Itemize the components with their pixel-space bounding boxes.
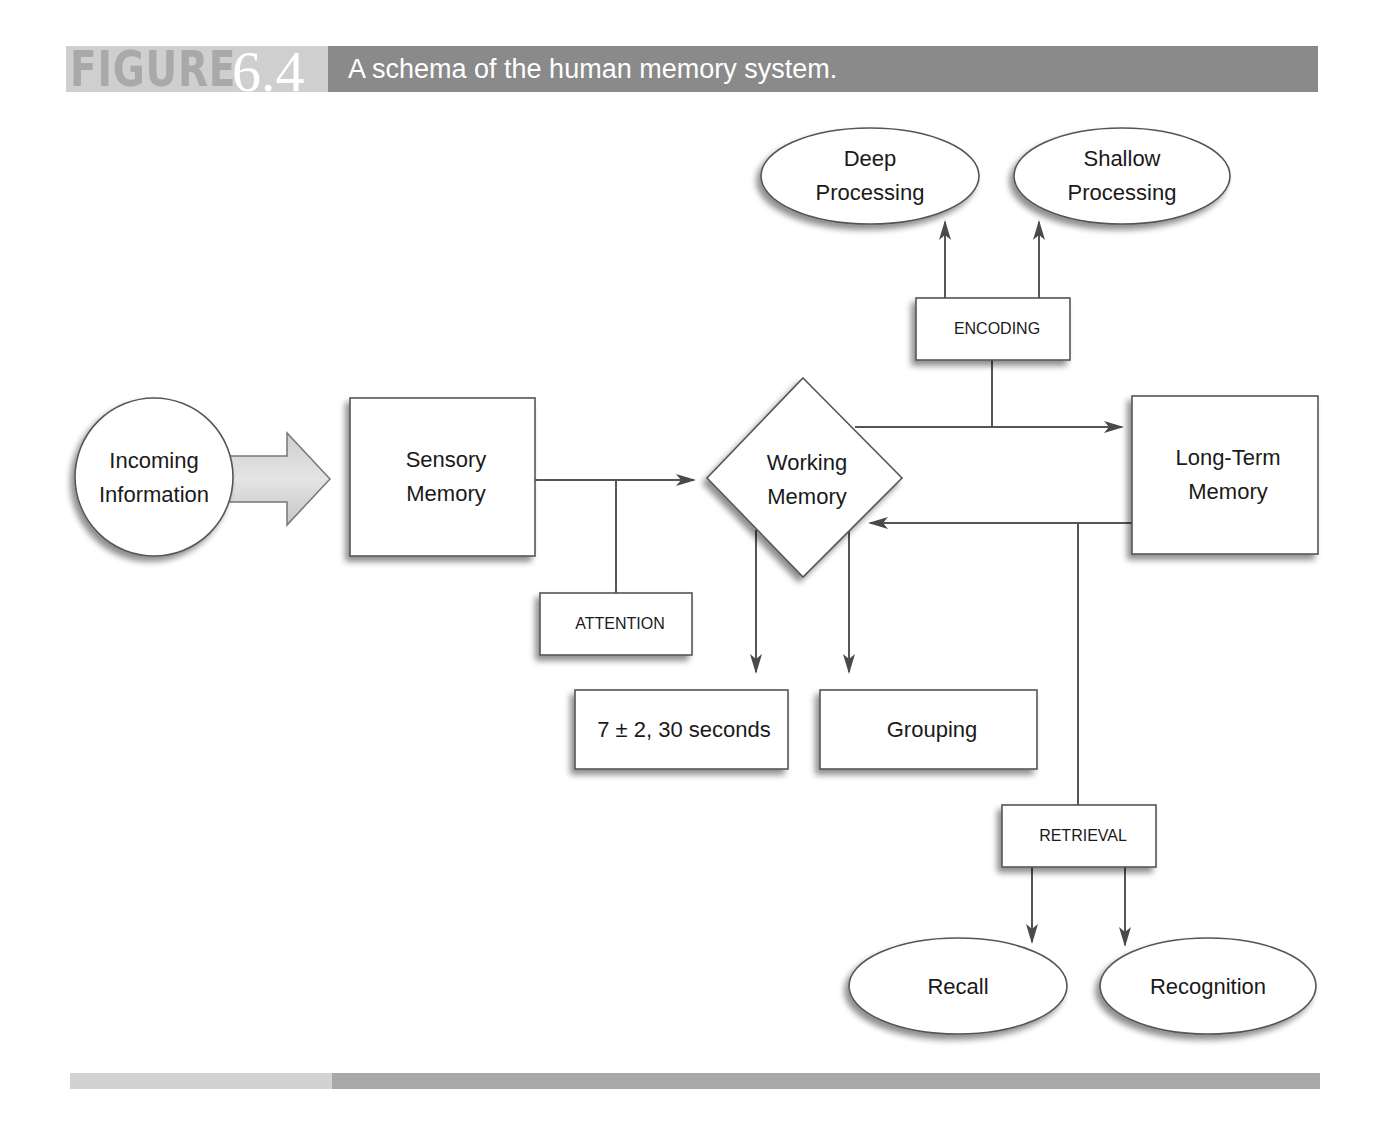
longterm-label-1: Long-Term bbox=[1175, 445, 1280, 470]
attention-label: ATTENTION bbox=[575, 615, 664, 632]
footer-bar-dark bbox=[332, 1073, 1320, 1089]
incoming-label-1: Incoming bbox=[109, 448, 198, 473]
recognition-label: Recognition bbox=[1150, 974, 1266, 999]
incoming-label-2: Information bbox=[99, 482, 209, 507]
shallow-label-2: Processing bbox=[1068, 180, 1177, 205]
deep-processing-node[interactable] bbox=[761, 128, 979, 224]
deep-label-2: Processing bbox=[816, 180, 925, 205]
footer-bar bbox=[70, 1073, 1320, 1089]
sensory-label-2: Memory bbox=[406, 481, 485, 506]
incoming-information-node[interactable] bbox=[75, 398, 233, 556]
grouping-label: Grouping bbox=[887, 717, 978, 742]
deep-label-1: Deep bbox=[844, 146, 897, 171]
recall-label: Recall bbox=[927, 974, 988, 999]
encoding-label: ENCODING bbox=[954, 320, 1040, 337]
longterm-label-2: Memory bbox=[1188, 479, 1267, 504]
shallow-label-1: Shallow bbox=[1083, 146, 1160, 171]
sensory-memory-node[interactable] bbox=[350, 398, 535, 556]
retrieval-label: RETRIEVAL bbox=[1039, 827, 1127, 844]
capacity-label: 7 ± 2, 30 seconds bbox=[597, 717, 771, 742]
shallow-processing-node[interactable] bbox=[1014, 128, 1230, 224]
working-memory-node[interactable] bbox=[707, 378, 902, 577]
memory-diagram: Incoming Information Sensory Memory Work… bbox=[0, 0, 1379, 1124]
footer-bar-light bbox=[70, 1073, 332, 1089]
working-label-1: Working bbox=[767, 450, 847, 475]
sensory-label-1: Sensory bbox=[406, 447, 487, 472]
working-label-2: Memory bbox=[767, 484, 846, 509]
long-term-memory-node[interactable] bbox=[1132, 396, 1318, 554]
